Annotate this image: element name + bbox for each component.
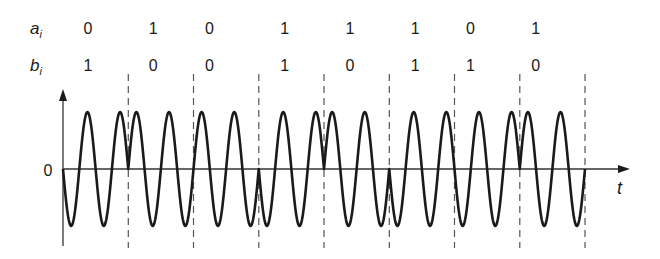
origin-label: 0 bbox=[44, 162, 53, 179]
y-axis-arrow-icon bbox=[59, 89, 67, 101]
a-row-label: ai bbox=[30, 19, 42, 40]
a-bit-3: 1 bbox=[280, 20, 289, 37]
b-bit-0: 1 bbox=[84, 57, 93, 74]
b-bit-5: 1 bbox=[411, 57, 420, 74]
b-row-label: bi bbox=[30, 56, 42, 77]
a-bit-1: 1 bbox=[149, 20, 158, 37]
x-axis-arrow-icon bbox=[618, 165, 630, 173]
a-bit-sequence: 01011101 bbox=[84, 20, 541, 37]
b-bit-sequence: 10010110 bbox=[84, 57, 541, 74]
b-bit-6: 1 bbox=[466, 57, 475, 74]
a-bit-7: 1 bbox=[531, 20, 540, 37]
b-bit-2: 0 bbox=[205, 57, 214, 74]
a-bit-4: 1 bbox=[346, 20, 355, 37]
a-bit-0: 0 bbox=[84, 20, 93, 37]
a-bit-2: 0 bbox=[205, 20, 214, 37]
time-axis-label: t bbox=[617, 178, 623, 198]
b-bit-1: 0 bbox=[149, 57, 158, 74]
b-bit-3: 1 bbox=[280, 57, 289, 74]
modulation-diagram: ai bi 01011101 10010110 0 t bbox=[0, 0, 660, 259]
b-bit-4: 0 bbox=[346, 57, 355, 74]
b-bit-7: 0 bbox=[531, 57, 540, 74]
a-bit-6: 0 bbox=[466, 20, 475, 37]
a-bit-5: 1 bbox=[411, 20, 420, 37]
